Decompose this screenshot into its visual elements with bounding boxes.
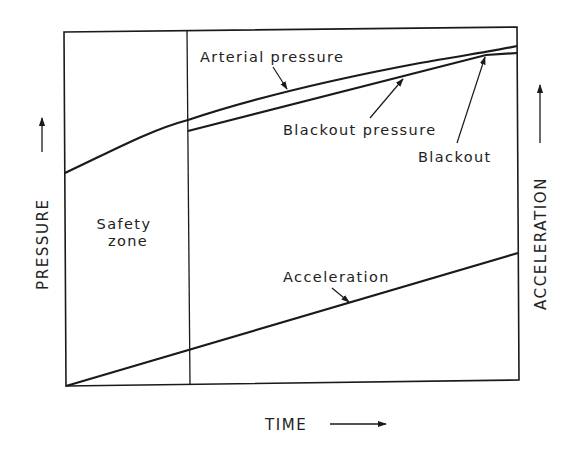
x-axis-title: TIME (264, 416, 307, 434)
safety-zone-line2: zone (108, 233, 148, 249)
y-axis-right-title: ACCELERATION (532, 177, 550, 310)
blackout-pressure-label: Blackout pressure (283, 122, 437, 138)
acceleration-pointer (332, 288, 349, 302)
safety-zone-divider (187, 31, 190, 385)
safety-zone-line1: Safety (97, 216, 152, 232)
safety-zone-label: Safety zone (97, 216, 158, 249)
blackout-pointer (457, 57, 485, 143)
arterial-pressure-label: Arterial pressure (200, 49, 344, 65)
acceleration-label: Acceleration (283, 269, 390, 285)
y-axis-left-title: PRESSURE (34, 198, 52, 290)
plot-frame (64, 27, 519, 386)
arterial-pressure-pointer (273, 67, 287, 89)
blackout-label: Blackout (418, 149, 492, 165)
blackout-diagram: Arterial pressure Blackout pressure Blac… (0, 0, 574, 455)
blackout-pressure-pointer (370, 79, 403, 118)
